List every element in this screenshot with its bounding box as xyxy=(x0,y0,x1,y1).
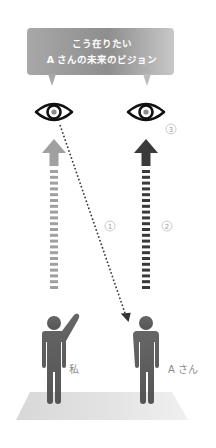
person-a-label: A さん xyxy=(168,364,198,375)
arrow-dash xyxy=(142,182,150,185)
arrow-dash xyxy=(50,199,58,202)
arrow-dash xyxy=(50,274,58,277)
arrow-dash xyxy=(142,176,150,179)
arrow-dash xyxy=(50,269,58,272)
arrow-dash xyxy=(142,170,150,173)
arrow-dash xyxy=(142,211,150,214)
arrow-dash xyxy=(50,193,58,196)
eye-icon xyxy=(128,104,164,120)
arrow-dash xyxy=(142,263,150,266)
arrow-head-dark xyxy=(134,139,158,166)
bubble-tail-right xyxy=(143,74,151,86)
arrow-dash xyxy=(50,211,58,214)
eye-icon xyxy=(36,104,72,120)
arrow-up-dark xyxy=(134,139,158,289)
arrow-dash xyxy=(50,234,58,237)
arrow-dash xyxy=(50,251,58,254)
arrow-dash xyxy=(50,205,58,208)
arrow-dash xyxy=(142,251,150,254)
svg-text:1: 1 xyxy=(108,223,112,231)
vision-diagram: こう在りたい A さんの未来のビジョン 3 1 2 xyxy=(0,0,216,448)
arrow-dash xyxy=(50,286,58,289)
person-me-icon xyxy=(42,314,79,405)
arrow-dash xyxy=(142,245,150,248)
arrow-dash xyxy=(50,187,58,190)
arrow-dash xyxy=(142,240,150,243)
floor xyxy=(16,392,188,420)
speech-bubble: こう在りたい A さんの未来のビジョン xyxy=(27,28,174,86)
person-me-label: 私 xyxy=(69,364,79,375)
arrow-dash xyxy=(142,228,150,231)
arrow-dash xyxy=(142,257,150,260)
dashed-shaft-light xyxy=(50,170,58,289)
arrow-dash xyxy=(142,222,150,225)
arrow-dash xyxy=(142,205,150,208)
arrow-dash xyxy=(50,176,58,179)
arrow-dash xyxy=(50,222,58,225)
dotted-arrow-head xyxy=(121,313,132,323)
arrow-dash xyxy=(142,234,150,237)
arrow-dash xyxy=(50,170,58,173)
bubble-tail-left xyxy=(48,74,56,86)
arrow-dash xyxy=(142,269,150,272)
arrow-dash xyxy=(50,182,58,185)
person-a-icon xyxy=(133,316,159,404)
bubble-line-2: A さんの未来のビジョン xyxy=(47,54,158,65)
arrow-head-light xyxy=(42,139,66,166)
arrow-dash xyxy=(50,228,58,231)
svg-text:3: 3 xyxy=(169,126,173,134)
marker-2: 2 xyxy=(162,221,172,231)
arrow-dash xyxy=(50,280,58,283)
marker-3: 3 xyxy=(166,124,176,134)
bubble-body xyxy=(27,28,174,75)
arrow-dash xyxy=(142,286,150,289)
marker-1: 1 xyxy=(105,221,115,231)
arrow-dash xyxy=(142,187,150,190)
dashed-shaft-dark xyxy=(142,170,150,289)
diagonal-dotted-arrow xyxy=(60,125,132,323)
arrow-up-light xyxy=(42,139,66,289)
arrow-dash xyxy=(142,193,150,196)
bubble-line-1: こう在りたい xyxy=(72,38,132,49)
arrow-dash xyxy=(142,199,150,202)
arrow-dash xyxy=(50,245,58,248)
arrow-dash xyxy=(50,263,58,266)
arrow-dash xyxy=(142,280,150,283)
svg-text:2: 2 xyxy=(165,223,169,231)
dotted-line xyxy=(60,125,125,313)
arrow-dash xyxy=(50,216,58,219)
arrow-dash xyxy=(50,240,58,243)
arrow-dash xyxy=(142,274,150,277)
arrow-dash xyxy=(50,257,58,260)
arrow-dash xyxy=(142,216,150,219)
